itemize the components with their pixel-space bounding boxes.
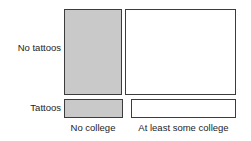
mosaic-tile-tattoos-no-college [64, 99, 123, 118]
row-label-tattoos: Tattoos [0, 102, 61, 113]
mosaic-plot: No tattoos Tattoos No college At least s… [0, 0, 251, 141]
row-label-no-tattoos: No tattoos [0, 42, 61, 53]
mosaic-tile-no-tattoos-some-college [125, 9, 236, 95]
mosaic-tile-tattoos-some-college [131, 99, 236, 118]
column-label-at-least-some-college: At least some college [123, 122, 244, 133]
mosaic-tile-no-tattoos-no-college [64, 9, 122, 95]
